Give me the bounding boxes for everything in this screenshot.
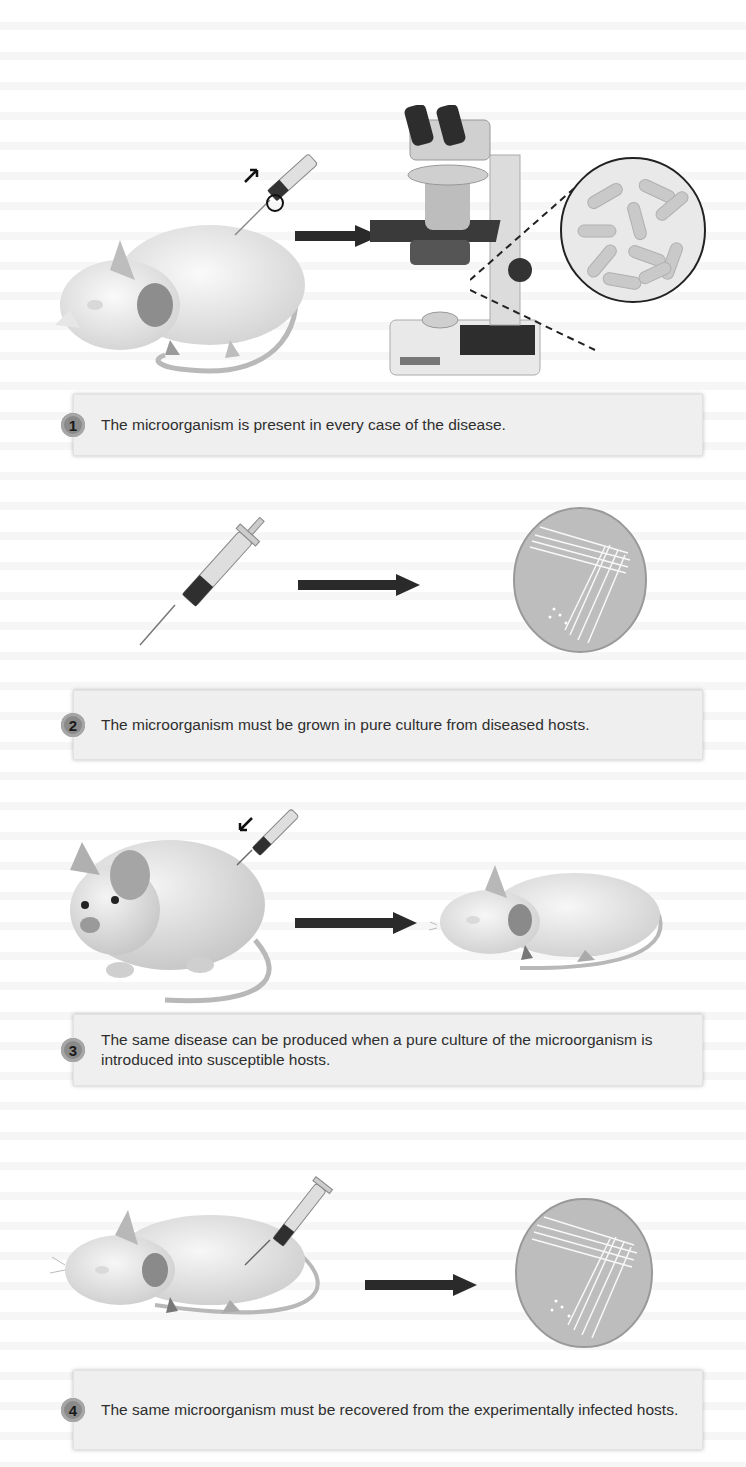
magnified-bacilli-icon xyxy=(558,155,708,305)
right-arrow-icon xyxy=(365,1274,477,1296)
petri-dish-culture-icon xyxy=(512,1195,657,1350)
step-4-illustration xyxy=(0,1110,746,1360)
syringe-icon xyxy=(232,800,312,870)
step-4-caption: 4 The same microorganism must be recover… xyxy=(73,1370,703,1450)
step-3-illustration xyxy=(0,780,746,1010)
step-1-caption: 1 The microorganism is present in every … xyxy=(73,394,703,456)
step-text: The microorganism must be grown in pure … xyxy=(101,715,589,735)
diseased-mouse-icon xyxy=(425,860,685,980)
step-text: The same disease can be produced when a … xyxy=(101,1030,687,1070)
syringe-icon xyxy=(235,1160,345,1270)
petri-dish-culture-icon xyxy=(510,505,650,655)
step-number-badge: 3 xyxy=(61,1038,85,1062)
step-text: The microorganism is present in every ca… xyxy=(101,415,506,435)
step-text: The same microorganism must be recovered… xyxy=(101,1400,678,1420)
step-2-caption: 2 The microorganism must be grown in pur… xyxy=(73,690,703,760)
step-1-illustration xyxy=(0,100,746,380)
right-arrow-icon xyxy=(295,912,417,934)
step-3-caption: 3 The same disease can be produced when … xyxy=(73,1014,703,1086)
step-2-illustration xyxy=(0,470,746,670)
syringe-icon xyxy=(135,510,285,650)
step-number-badge: 4 xyxy=(61,1398,85,1422)
right-arrow-icon xyxy=(298,574,420,596)
step-number-badge: 1 xyxy=(61,413,85,437)
right-arrow-icon xyxy=(295,225,380,247)
step-number-badge: 2 xyxy=(61,713,85,737)
